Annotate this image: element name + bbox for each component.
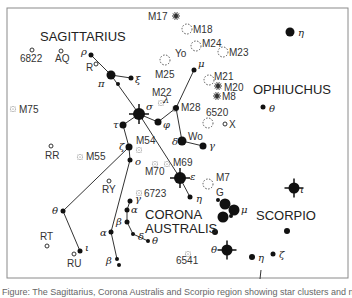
constellation-line bbox=[111, 232, 117, 259]
star-phi-sgr: φ bbox=[155, 119, 171, 131]
star-tau-sgr: τ bbox=[113, 119, 127, 130]
object-m54: M54 bbox=[136, 135, 156, 153]
star-icon bbox=[128, 199, 133, 204]
open-cluster-icon bbox=[203, 179, 213, 189]
star-icon bbox=[229, 214, 233, 218]
star-icon bbox=[178, 137, 187, 146]
star-icon bbox=[249, 254, 255, 260]
globular-cluster-icon bbox=[10, 106, 16, 112]
star-label: θ bbox=[52, 205, 58, 216]
star-label: σ bbox=[146, 101, 154, 112]
star-icon bbox=[216, 198, 220, 202]
object-label: M7 bbox=[216, 172, 230, 183]
open-cluster-icon bbox=[218, 47, 228, 57]
star-icon bbox=[286, 28, 295, 37]
object-cluster bbox=[203, 118, 213, 128]
object-label: G bbox=[216, 187, 224, 198]
object-label: M24 bbox=[202, 38, 222, 49]
object-label: M23 bbox=[229, 47, 249, 58]
star-chart: M17M18M24YoM23M25M21M20M8M22M286520XWoM5… bbox=[0, 0, 352, 298]
star-icon bbox=[192, 68, 197, 73]
star-icon bbox=[218, 212, 229, 223]
star-epsilon-sgr: ε bbox=[170, 168, 195, 188]
open-cluster-icon bbox=[204, 75, 214, 85]
star-iota-sgr: ι bbox=[78, 242, 90, 254]
star-eta-sco: η bbox=[249, 252, 264, 263]
open-cluster-icon bbox=[160, 55, 170, 65]
object-m69: M69 bbox=[164, 157, 193, 168]
star-label: ζ bbox=[119, 141, 125, 152]
star-label: β bbox=[115, 216, 122, 227]
star-theta-sgr: θ bbox=[52, 205, 66, 216]
star-G-sco-b bbox=[220, 199, 231, 210]
star-icon bbox=[200, 143, 207, 150]
star-label: β bbox=[105, 255, 112, 266]
object-r: R bbox=[86, 62, 98, 73]
star-gamma-cra: γ bbox=[128, 193, 142, 204]
object-label: RT bbox=[40, 231, 53, 242]
star-icon bbox=[173, 105, 179, 111]
star-label: δ bbox=[138, 231, 144, 242]
star-delta-sgr: δ bbox=[172, 136, 187, 147]
star-icon bbox=[271, 252, 276, 257]
star-G-sco-a bbox=[216, 198, 220, 202]
star-label: γ bbox=[135, 193, 141, 204]
object-label: M69 bbox=[173, 157, 193, 168]
star-label: γ bbox=[209, 140, 215, 151]
star-icon bbox=[229, 205, 240, 216]
constellation-name: OPHIUCHUS bbox=[253, 82, 331, 97]
star-label: θ bbox=[269, 103, 275, 114]
object-label: Wo bbox=[188, 131, 203, 142]
star-icon bbox=[131, 232, 135, 236]
object-m55: M55 bbox=[77, 151, 106, 162]
star-beta2-sgr bbox=[117, 263, 121, 267]
star-label: ι bbox=[300, 184, 304, 195]
open-cluster-icon bbox=[191, 41, 201, 51]
object-label: M70 bbox=[145, 166, 165, 177]
star-eta-sgr: η bbox=[188, 193, 203, 204]
object-label: M28 bbox=[181, 102, 201, 113]
object-m17: M17 bbox=[148, 11, 180, 22]
star-icon bbox=[107, 71, 116, 80]
nebula-icon bbox=[214, 82, 222, 90]
object-m70: M70 bbox=[145, 161, 165, 177]
figure-caption: Figure: The Sagittarius, Corona Australi… bbox=[2, 287, 352, 298]
variable-star-icon bbox=[94, 62, 98, 66]
star-pi-sgr: π bbox=[97, 71, 116, 90]
object-m23: M23 bbox=[218, 47, 249, 58]
variable-star-icon bbox=[223, 122, 227, 126]
star-label: ζ bbox=[279, 249, 285, 260]
star-label: ρ bbox=[80, 46, 87, 57]
star-icon bbox=[220, 199, 231, 210]
object-label: M18 bbox=[193, 24, 213, 35]
star-icon bbox=[261, 105, 266, 110]
star-icon bbox=[120, 122, 127, 129]
object-label: M21 bbox=[214, 71, 234, 82]
star-theta-cra: θ bbox=[146, 235, 158, 246]
star-icon bbox=[146, 239, 150, 243]
star-icon bbox=[109, 230, 114, 235]
object-label: M17 bbox=[148, 11, 168, 22]
object-label: 6723 bbox=[144, 188, 167, 199]
star-label: η bbox=[258, 252, 264, 263]
constellation-name: SAGITTARIUS bbox=[40, 29, 126, 44]
object-m75: M75 bbox=[10, 104, 39, 115]
globular-cluster-icon bbox=[136, 147, 142, 153]
star-label: α bbox=[100, 227, 107, 238]
object-label: RY bbox=[102, 184, 116, 195]
star-icon bbox=[78, 249, 83, 254]
star-icon bbox=[89, 53, 94, 58]
star-label: θ bbox=[152, 235, 158, 246]
variable-star-icon bbox=[49, 144, 53, 148]
star-theta-sco: θ bbox=[211, 241, 237, 260]
object-x: X bbox=[223, 119, 236, 130]
nebula-icon bbox=[172, 12, 180, 20]
object-label: R bbox=[86, 62, 93, 73]
star-mu-sco: μ bbox=[229, 204, 248, 216]
star-icon bbox=[284, 228, 290, 234]
star-label: λ bbox=[162, 94, 169, 105]
star-zeta-sco-c bbox=[229, 214, 233, 218]
object-label: AQ bbox=[55, 53, 70, 64]
object-label: RU bbox=[67, 258, 81, 269]
object-ry: RY bbox=[102, 179, 116, 195]
